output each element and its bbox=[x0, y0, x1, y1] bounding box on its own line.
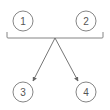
node-3-label: 3 bbox=[20, 87, 26, 98]
node-1: 1 bbox=[13, 11, 33, 31]
group-bracket bbox=[7, 32, 103, 38]
node-4: 4 bbox=[76, 82, 96, 102]
diagram-canvas: 1 2 3 4 bbox=[0, 0, 110, 110]
node-3: 3 bbox=[13, 82, 33, 102]
arrow-to-node-4 bbox=[55, 38, 78, 81]
node-2: 2 bbox=[76, 11, 96, 31]
node-1-label: 1 bbox=[20, 16, 26, 27]
node-4-label: 4 bbox=[83, 87, 89, 98]
arrow-to-node-3 bbox=[33, 38, 55, 81]
node-2-label: 2 bbox=[83, 16, 89, 27]
